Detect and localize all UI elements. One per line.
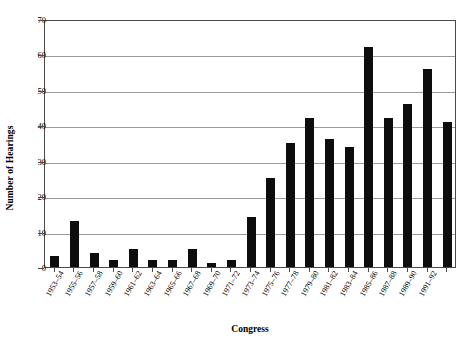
y-axis-title: Number of Hearings bbox=[0, 108, 18, 228]
y-tick-mark bbox=[38, 126, 44, 127]
bar-chart: Number of Hearings 010203040506070 1953–… bbox=[0, 0, 466, 345]
y-tick-mark bbox=[38, 268, 44, 269]
y-tick-mark bbox=[38, 162, 44, 163]
x-tick-mark bbox=[446, 268, 447, 272]
y-tick-mark bbox=[38, 233, 44, 234]
y-tick-mark bbox=[38, 20, 44, 21]
y-axis-title-text: Number of Hearings bbox=[4, 125, 14, 210]
y-tick-mark bbox=[38, 91, 44, 92]
y-tick-mark bbox=[38, 55, 44, 56]
x-axis-title: Congress bbox=[44, 324, 456, 334]
y-tick-mark bbox=[38, 197, 44, 198]
